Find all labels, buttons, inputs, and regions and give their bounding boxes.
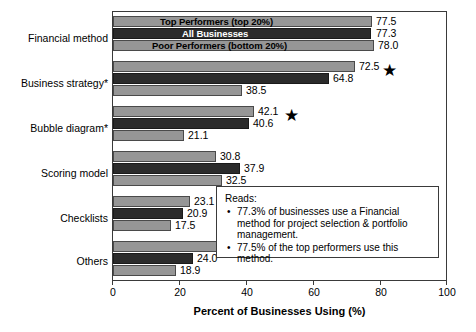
x-tick-label-80: 80 [361,287,401,298]
bar-chart: Financial method Business strategy* Bubb… [0,0,476,332]
x-tick-label-0: 0 [93,287,133,298]
x-tick-label-100: 100 [427,287,467,298]
x-axis: 0 20 40 60 80 100 [0,0,476,332]
x-tick-label-20: 20 [160,287,200,298]
x-tick-label-40: 40 [227,287,267,298]
x-tick-label-60: 60 [294,287,334,298]
x-axis-title: Percent of Businesses Using (%) [112,305,447,317]
